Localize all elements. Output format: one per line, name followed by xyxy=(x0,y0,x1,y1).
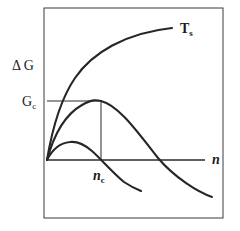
gc-label-subscript: c xyxy=(32,101,36,111)
ts-label-subscript: s xyxy=(189,28,193,38)
nc-label-subscript: c xyxy=(101,175,105,185)
gc-axis-label: Gc xyxy=(22,94,36,111)
figure-container: Δ G Gc nc n Ts xyxy=(0,0,240,231)
nc-label-base: n xyxy=(93,168,101,183)
y-axis-label: Δ G xyxy=(12,58,34,73)
x-axis-label: n xyxy=(212,152,220,167)
nucleation-diagram-svg: Δ G Gc nc n Ts xyxy=(0,0,240,231)
gc-label-base: G xyxy=(22,94,32,109)
